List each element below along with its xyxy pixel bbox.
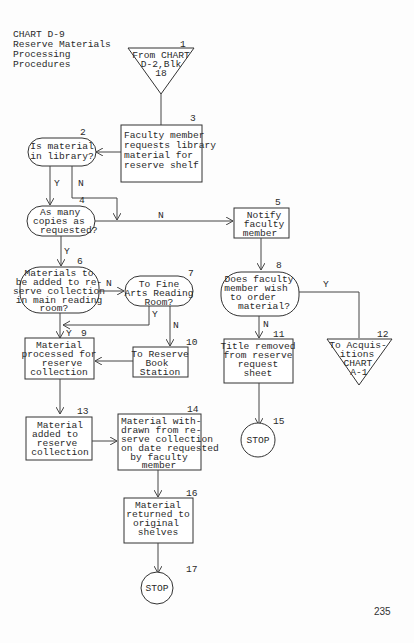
- node-text: member: [243, 228, 278, 239]
- node-number: 17: [186, 564, 198, 575]
- node-number: 16: [186, 488, 198, 499]
- edge-label-yes: Y: [64, 246, 70, 257]
- node-text: STOP: [145, 583, 168, 594]
- edge-label-yes: Y: [66, 328, 72, 339]
- node-16-material-returned[interactable]: 16 Material returned to original shelves: [124, 488, 198, 543]
- flowchart-canvas: CHART D-9 Reserve Materials Processing P…: [0, 0, 414, 643]
- node-number: 6: [77, 256, 83, 267]
- node-3-faculty-request[interactable]: 3 Faculty member requests library materi…: [121, 113, 216, 182]
- edge-label-no: N: [263, 319, 269, 330]
- node-text: material?: [238, 301, 290, 312]
- node-number: 11: [273, 329, 285, 340]
- node-number: 14: [187, 404, 199, 415]
- node-text: sheet: [244, 368, 273, 379]
- edge-label-no: N: [78, 178, 84, 189]
- node-text: collection: [31, 447, 89, 458]
- node-text: collection: [30, 367, 88, 378]
- page-number: 235: [374, 606, 391, 617]
- node-text: requested?: [40, 225, 98, 236]
- node-7-fine-arts-reading-room[interactable]: 7 To Fine Arts Reading Room?: [124, 268, 193, 308]
- node-text: Station: [140, 367, 180, 378]
- node-number: 8: [276, 260, 282, 271]
- node-10-reserve-book-station[interactable]: 10 To Reserve Book Station: [131, 337, 198, 378]
- node-number: 13: [77, 406, 89, 417]
- node-14-material-withdrawn[interactable]: 14 Material with- drawn from re- serve c…: [118, 404, 219, 471]
- node-number: 15: [273, 416, 285, 427]
- edge-label-no: N: [106, 278, 112, 289]
- flowchart-page: CHART D-9 Reserve Materials Processing P…: [0, 0, 414, 643]
- edge-label-no: N: [173, 320, 179, 331]
- node-number: 12: [377, 329, 389, 340]
- edge-label-no: N: [158, 210, 164, 221]
- node-number: 4: [79, 195, 85, 206]
- connector-8-12-yes: [299, 292, 359, 338]
- node-text: room?: [40, 303, 69, 314]
- node-11-title-removed[interactable]: 11 Title removed from reserve request sh…: [221, 329, 296, 383]
- node-text: in library?: [30, 151, 94, 162]
- node-number: 9: [81, 328, 87, 339]
- node-text: STOP: [246, 435, 269, 446]
- chart-title-line: Procedures: [13, 59, 71, 70]
- node-number: 5: [275, 197, 281, 208]
- node-1-from-chart-d2[interactable]: 1 From CHART D-2,Blk 18: [128, 39, 194, 94]
- node-17-stop[interactable]: 17 STOP: [141, 564, 198, 604]
- node-2-is-material-in-library[interactable]: 2 Is material in library?: [28, 127, 96, 166]
- node-5-notify-faculty[interactable]: 5 Notify faculty member: [234, 197, 289, 239]
- node-9-material-processed[interactable]: 9 Material processed for reserve collect…: [22, 328, 97, 379]
- node-4-as-many-copies[interactable]: 4 As many copies as requested?: [27, 195, 98, 236]
- node-6-main-reading-room[interactable]: 6 Materials to be added to re- serve col…: [13, 256, 105, 314]
- node-text: 18: [155, 68, 167, 79]
- node-number: 3: [190, 113, 196, 124]
- node-text: A-1: [350, 367, 368, 378]
- node-number: 7: [188, 268, 194, 279]
- node-13-material-added[interactable]: 13 Material added to reserve collection: [26, 406, 92, 460]
- node-text: reserve shelf: [124, 160, 199, 171]
- chart-title: CHART D-9 Reserve Materials Processing P…: [13, 29, 111, 70]
- node-text: shelves: [138, 527, 178, 538]
- node-number: 10: [186, 337, 198, 348]
- node-text: member: [142, 460, 177, 471]
- node-8-faculty-wish-to-order[interactable]: 8 Does faculty member wish to order mate…: [221, 260, 299, 316]
- edge-label-yes: Y: [323, 279, 329, 290]
- node-number: 2: [80, 127, 86, 138]
- node-15-stop[interactable]: 15 STOP: [241, 416, 285, 457]
- edge-label-yes: Y: [54, 178, 60, 189]
- edge-label-yes: Y: [152, 309, 158, 320]
